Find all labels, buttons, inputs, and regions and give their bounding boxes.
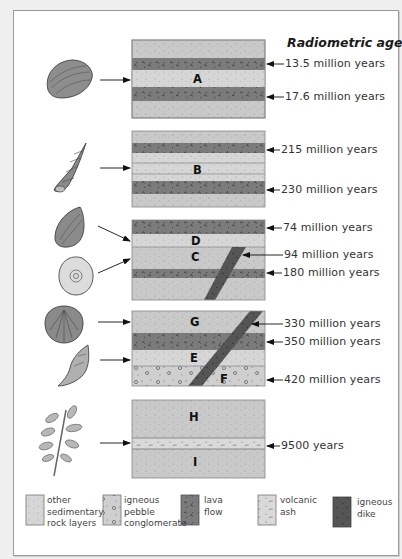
age-label: 350 million years [284,335,381,348]
age-label: 17.6 million years [285,90,385,103]
leaf-fossil-icon [38,404,82,476]
scallop-fossil-icon [45,306,83,343]
age-label: 420 million years [284,373,381,386]
ammonite-fossil-icon [59,257,93,295]
layer-label-h: H [189,410,199,424]
layer-label-e: E [190,351,198,365]
legend-swatch-dike [333,497,351,527]
whelk-fossil-icon [58,345,89,386]
layer-label-g: G [190,315,199,329]
legend-label-sedimentary: other sedimentary rock layers [47,495,104,530]
legend-label-dike: igneous dike [357,497,392,520]
layer-label-c: C [191,250,199,264]
fossil-arrows [98,80,130,443]
layer-label-b: B [193,163,202,177]
age-label: 215 million years [281,143,378,156]
legend-label-conglomerate: igneous pebble conglomerate [124,495,186,530]
age-label: 13.5 million years [285,57,385,70]
layer-label-f: F [220,372,228,386]
age-label: 94 million years [284,248,374,261]
legend-label-ash: volcanic ash [280,495,317,518]
age-arrows [243,64,284,446]
legend-swatch-conglomerate [103,495,121,525]
legend-swatch-sedimentary [26,495,44,525]
age-label: 9500 years [281,439,344,452]
high-spired-snail-fossil-icon [54,143,86,192]
age-label: 330 million years [284,317,381,330]
age-label: 230 million years [281,183,378,196]
clam-fossil-icon [47,60,92,98]
radiometric-age-title: Radiometric age [287,35,402,50]
layer-label-a: A [193,72,202,86]
legend-swatch-ash [258,495,276,525]
age-label: 74 million years [283,221,373,234]
age-label: 180 million years [283,266,380,279]
layer-label-i: I [193,455,197,469]
oyster-fossil-icon [55,207,84,247]
legend-label-lava: lava flow [204,495,223,518]
layer-label-d: D [191,234,201,248]
